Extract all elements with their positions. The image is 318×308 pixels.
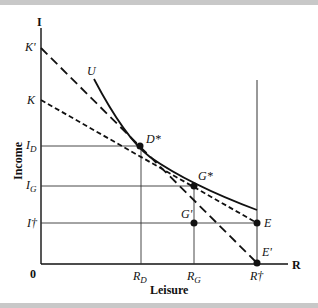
label-IG: IG (25, 178, 37, 194)
label-K: K (26, 93, 36, 107)
label-RD: RD (132, 269, 147, 285)
label-Rdagger: R† (249, 269, 264, 283)
point-E (254, 220, 261, 227)
label-ID: ID (25, 138, 37, 154)
point-G-star (191, 183, 198, 190)
x-axis-title: Leisure (150, 283, 189, 297)
label-U: U (87, 64, 97, 78)
label-E: E (263, 216, 272, 230)
label-G-prime: G' (181, 207, 193, 221)
point-D-star (137, 143, 144, 150)
y-axis-title: Income (11, 141, 25, 180)
budget-line-K-E (41, 100, 257, 223)
y-axis-symbol: I (37, 15, 42, 29)
label-Kprime: K' (24, 40, 36, 54)
point-E-prime (254, 260, 261, 267)
label-G-star: G* (198, 169, 213, 183)
income-leisure-diagram: I R 0 K' K ID IG I† Income RD RG R† Leis… (0, 0, 318, 308)
x-axis-symbol: R (292, 258, 301, 272)
origin-label: 0 (30, 267, 36, 281)
label-Idagger: I† (26, 216, 38, 230)
label-D-star: D* (145, 132, 161, 146)
label-E-prime: E' (261, 245, 272, 259)
